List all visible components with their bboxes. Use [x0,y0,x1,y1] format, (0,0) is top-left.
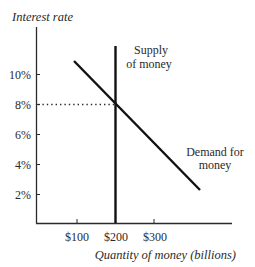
y-tick-label-6: 6% [15,128,31,142]
demand-label-line1: Demand for [186,145,244,159]
y-axis-title: Interest rate [11,10,73,24]
money-market-chart: 10% 8% 6% 4% 2% $100 $200 $300 Interest … [0,0,255,267]
x-tick-label-200: $200 [104,230,128,244]
x-axis-title: Quantity of money (billions) [95,248,236,262]
y-tick-label-4: 4% [15,158,31,172]
y-tick-label-2: 2% [15,188,31,202]
supply-label-line1: Supply [134,43,168,57]
y-tick-label-10: 10% [9,68,31,82]
x-tick-label-300: $300 [143,230,167,244]
demand-curve [74,61,200,190]
x-tick-label-100: $100 [65,230,89,244]
supply-label-line2: of money [126,57,172,71]
y-tick-label-8: 8% [15,98,31,112]
demand-label-line2: money [199,158,232,172]
